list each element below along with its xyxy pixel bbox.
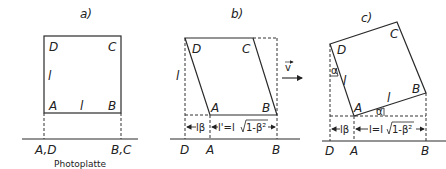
- proj-label-b: B: [421, 144, 429, 158]
- corner-a: A: [48, 99, 57, 113]
- panel-a-title: a): [80, 7, 92, 21]
- panel-c-title: c): [361, 11, 372, 25]
- photoplate-caption: Photoplatte: [54, 159, 106, 169]
- side-label-left: l: [176, 69, 180, 83]
- measure-lbeta: lβ: [340, 124, 349, 135]
- proj-label-ad: A,D: [34, 143, 57, 157]
- corner-c: C: [242, 42, 251, 56]
- proj-label-a: A: [349, 144, 358, 158]
- proj-label-bc: B,C: [111, 143, 132, 157]
- corner-b: B: [108, 99, 116, 113]
- angle-label-bottom: α: [376, 106, 383, 117]
- panel-b: b) D C A B l lβ l'=l 1-β² D A B: [170, 7, 300, 157]
- corner-a: A: [353, 101, 362, 115]
- proj-label-d: D: [180, 143, 189, 157]
- corner-a: A: [210, 101, 219, 115]
- velocity-indicator: v: [282, 62, 302, 78]
- panel-a: a) D C A B l l A,D B,C Photoplatte: [22, 7, 138, 169]
- corner-d: D: [337, 43, 346, 57]
- side-label-bottom: l: [387, 91, 391, 105]
- measure-l-root: 1-β²: [392, 124, 412, 135]
- side-label-bottom: l: [80, 99, 84, 113]
- corner-c: C: [390, 27, 399, 41]
- proj-label-b: B: [272, 143, 280, 157]
- corner-d: D: [49, 40, 58, 54]
- corner-c: C: [108, 40, 117, 54]
- corner-b: B: [262, 101, 270, 115]
- relativity-diagram: a) D C A B l l A,D B,C Photoplatte b) D …: [0, 0, 446, 169]
- velocity-label: v: [285, 62, 291, 73]
- proj-label-a: A: [205, 143, 214, 157]
- panel-c: c) D C A B l l α α lβ l=l 1-β² D A B: [322, 11, 446, 158]
- measure-lprime-root: 1-β²: [246, 122, 266, 133]
- corner-d: D: [192, 42, 201, 56]
- rotated-square: [330, 22, 426, 116]
- measure-l-prefix: l=l: [369, 124, 383, 135]
- panel-b-title: b): [231, 7, 243, 21]
- corner-b: B: [412, 82, 420, 96]
- proj-label-d: D: [325, 144, 334, 158]
- measure-lprime-prefix: l'=l: [218, 122, 235, 133]
- measure-lbeta: lβ: [196, 122, 205, 133]
- side-label-left: l: [343, 74, 347, 88]
- side-label-left: l: [48, 69, 52, 83]
- angle-label-left: α: [331, 65, 338, 76]
